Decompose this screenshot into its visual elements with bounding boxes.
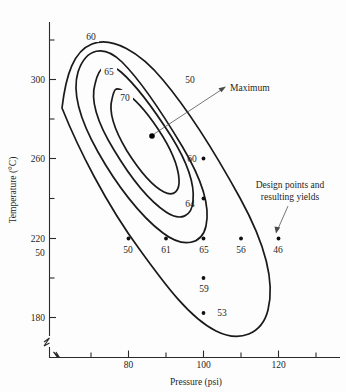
- y-axis-break-icon: [44, 338, 50, 346]
- design-note-leader-line: [277, 206, 288, 231]
- design-point-label-50: 50: [123, 245, 133, 255]
- design-point-59: [202, 276, 206, 280]
- design-note-line-1: Design points and: [256, 180, 325, 190]
- contour-label-group: [32, 29, 198, 258]
- x-tick-label-100: 100: [196, 360, 211, 370]
- y-tick-label-300: 300: [31, 75, 46, 85]
- design-point-53: [202, 311, 206, 315]
- design-point-50: [127, 237, 131, 241]
- design-point-label-65: 65: [199, 245, 209, 255]
- design-point-label-60: 60: [187, 154, 197, 164]
- design-point-56: [239, 237, 243, 241]
- design-point-label-53: 53: [217, 308, 227, 318]
- y-axis-title: Temperature (°C): [8, 157, 19, 224]
- contour-plot-figure: 300 260 220 180 80 100 120 Pressure (psi…: [0, 0, 346, 392]
- x-axis-title: Pressure (psi): [170, 377, 222, 388]
- y-tick-label-220: 220: [31, 234, 46, 244]
- plot-canvas: 300 260 220 180 80 100 120 Pressure (psi…: [0, 0, 346, 392]
- y-tick-label-180: 180: [31, 313, 46, 323]
- y-tick-label-260: 260: [31, 154, 46, 164]
- design-point-65: [202, 237, 206, 241]
- x-axis-break-icon: [54, 352, 60, 358]
- design-point-60: [202, 157, 206, 161]
- design-point-label-46: 46: [273, 245, 283, 255]
- design-point-label-59: 59: [199, 284, 209, 294]
- maximum-annotation-label: Maximum: [230, 83, 270, 93]
- contour-label-65: 65: [104, 67, 114, 77]
- design-note-arrowhead-icon: [275, 227, 281, 234]
- maximum-arrowhead-icon: [219, 87, 227, 93]
- tick-label-group: 300 260 220 180 80 100 120: [31, 75, 286, 370]
- design-point-61: [164, 237, 168, 241]
- design-point-46: [277, 237, 281, 241]
- design-point-label-64: 64: [185, 199, 195, 209]
- contour-label-50-bottom: 50: [35, 248, 45, 258]
- design-point-label-56: 56: [236, 245, 246, 255]
- x-tick-label-80: 80: [124, 360, 134, 370]
- x-major-ticks: [129, 351, 279, 358]
- x-tick-label-120: 120: [271, 360, 286, 370]
- contour-path-70: [111, 89, 179, 194]
- design-point-label-61: 61: [161, 245, 171, 255]
- maximum-leader-line: [154, 88, 224, 134]
- contour-label-70: 70: [120, 93, 130, 103]
- design-note-line-2: resulting yields: [261, 192, 320, 202]
- design-note-group: [275, 206, 289, 234]
- maximum-point: [149, 133, 155, 139]
- contour-label-60: 60: [86, 32, 96, 42]
- contour-label-50-top: 50: [185, 75, 195, 85]
- design-point-64: [202, 197, 206, 201]
